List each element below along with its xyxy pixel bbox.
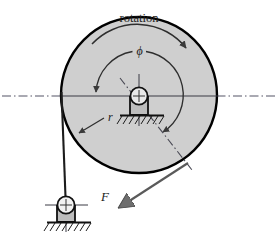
force-label: F — [100, 189, 110, 204]
pulley-ground-hatch — [44, 223, 91, 231]
radius-label: r — [108, 110, 113, 124]
pulley-pin-support — [44, 196, 91, 232]
diagram-svg: rotation ϕ r F — [0, 0, 278, 242]
phi-label: ϕ — [136, 44, 142, 58]
rotation-label: rotation — [120, 11, 160, 25]
figure-canvas: rotation ϕ r F — [0, 0, 278, 242]
